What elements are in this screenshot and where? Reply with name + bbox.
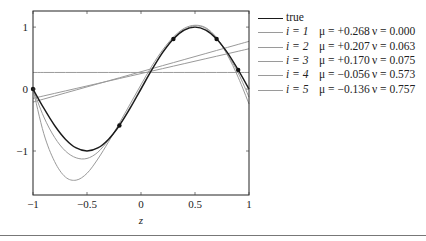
- series-true-line: [33, 27, 249, 151]
- legend-nu: ν = 0.075: [372, 54, 415, 66]
- y-tick-label: 1: [23, 21, 29, 33]
- plot-curves: [33, 25, 249, 180]
- legend-swatch-i1: [258, 32, 283, 33]
- x-tick-label: −0.5: [77, 198, 97, 210]
- legend-mu: μ = +0.207: [319, 40, 370, 52]
- legend-nu: ν = 0.000: [372, 25, 415, 37]
- series-i3-line: [33, 49, 249, 99]
- x-tick-label: 0: [138, 198, 144, 210]
- observation-dot: [171, 37, 175, 41]
- legend-nu: ν = 0.757: [372, 83, 415, 95]
- legend-item-i1: i = 1 μ = +0.268 ν = 0.000: [258, 25, 426, 39]
- legend-item-i2: i = 2 μ = +0.207 ν = 0.063: [258, 40, 426, 54]
- x-tick-label: 1: [246, 198, 252, 210]
- bottom-rule: [0, 235, 426, 236]
- x-tick-label: 0.5: [188, 198, 202, 210]
- x-axis-label: z: [138, 214, 144, 226]
- legend-item-true: true: [258, 11, 426, 25]
- legend-i: i = 1: [286, 25, 308, 37]
- legend-i: i = 2: [286, 40, 308, 52]
- legend-i: i = 4: [286, 68, 308, 80]
- legend-label-true: true: [286, 11, 304, 23]
- observation-dot: [214, 37, 218, 41]
- observation-points: [31, 37, 241, 128]
- legend-item-i3: i = 3 μ = +0.170 ν = 0.075: [258, 54, 426, 68]
- legend-mu: μ = −0.056: [319, 68, 370, 80]
- legend-item-i5: i = 5 μ = −0.136 ν = 0.757: [258, 83, 426, 97]
- legend-swatch-i2: [258, 47, 283, 48]
- legend-i: i = 5: [286, 83, 308, 95]
- legend-mu: μ = +0.170: [319, 54, 370, 66]
- legend-mu: μ = −0.136: [319, 83, 370, 95]
- legend-item-i4: i = 4 μ = −0.056 ν = 0.573: [258, 68, 426, 82]
- x-tick-label: −1: [27, 198, 39, 210]
- legend-nu: ν = 0.063: [372, 40, 415, 52]
- legend-nu: ν = 0.573: [372, 68, 415, 80]
- legend-swatch-i4: [258, 75, 283, 76]
- axis-tick-labels: −1−0.500.51−101: [16, 21, 251, 210]
- series-i5-line: [33, 25, 249, 180]
- legend-swatch-i5: [258, 90, 283, 91]
- legend-swatch-i3: [258, 61, 283, 62]
- y-tick-label: −1: [16, 145, 28, 157]
- observation-dot: [236, 68, 240, 72]
- legend-mu: μ = +0.268: [319, 25, 370, 37]
- legend-i: i = 3: [286, 54, 308, 66]
- observation-dot: [117, 123, 121, 127]
- y-tick-label: 0: [23, 83, 29, 95]
- legend-swatch-true: [258, 18, 283, 19]
- series-i2-line: [33, 41, 249, 102]
